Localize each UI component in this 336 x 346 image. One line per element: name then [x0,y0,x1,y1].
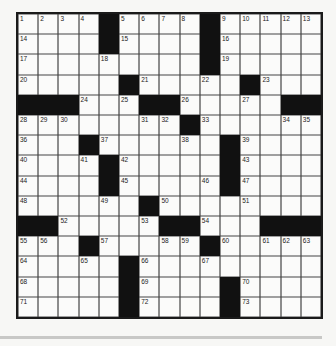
crossword-cell[interactable]: 2 [38,14,58,34]
crossword-cell[interactable] [281,155,301,175]
crossword-cell[interactable] [38,135,58,155]
crossword-cell[interactable] [260,176,280,196]
crossword-cell[interactable] [119,54,139,74]
crossword-cell[interactable] [200,297,220,317]
crossword-cell[interactable] [139,54,159,74]
crossword-cell[interactable] [159,277,179,297]
crossword-cell[interactable] [159,297,179,317]
crossword-cell[interactable] [99,115,119,135]
crossword-cell[interactable] [38,297,58,317]
crossword-cell[interactable]: 44 [18,176,38,196]
crossword-cell[interactable] [180,155,200,175]
crossword-cell[interactable] [260,54,280,74]
crossword-cell[interactable]: 37 [99,135,119,155]
crossword-cell[interactable]: 55 [18,236,38,256]
crossword-cell[interactable] [99,216,119,236]
crossword-cell[interactable] [200,277,220,297]
crossword-cell[interactable]: 72 [139,297,159,317]
crossword-cell[interactable]: 39 [240,135,260,155]
crossword-cell[interactable] [180,75,200,95]
crossword-cell[interactable]: 40 [18,155,38,175]
crossword-cell[interactable]: 13 [301,14,321,34]
crossword-cell[interactable] [260,95,280,115]
crossword-cell[interactable] [119,236,139,256]
crossword-cell[interactable] [301,34,321,54]
crossword-cell[interactable] [58,277,78,297]
crossword-cell[interactable] [281,54,301,74]
crossword-cell[interactable]: 66 [139,256,159,276]
crossword-cell[interactable] [58,54,78,74]
crossword-cell[interactable]: 14 [18,34,38,54]
crossword-cell[interactable]: 15 [119,34,139,54]
crossword-cell[interactable] [220,196,240,216]
crossword-cell[interactable]: 60 [220,236,240,256]
crossword-cell[interactable] [260,256,280,276]
crossword-cell[interactable] [240,236,260,256]
crossword-cell[interactable] [301,277,321,297]
crossword-cell[interactable] [139,34,159,54]
crossword-cell[interactable] [38,176,58,196]
crossword-cell[interactable]: 53 [139,216,159,236]
crossword-cell[interactable] [79,34,99,54]
crossword-cell[interactable] [79,216,99,236]
crossword-cell[interactable] [38,75,58,95]
crossword-cell[interactable]: 3 [58,14,78,34]
crossword-cell[interactable] [281,135,301,155]
crossword-cell[interactable] [159,135,179,155]
crossword-cell[interactable]: 23 [260,75,280,95]
crossword-cell[interactable] [281,256,301,276]
crossword-cell[interactable] [38,54,58,74]
crossword-cell[interactable] [58,75,78,95]
crossword-cell[interactable] [79,75,99,95]
crossword-cell[interactable] [180,196,200,216]
crossword-cell[interactable]: 42 [119,155,139,175]
crossword-cell[interactable] [79,176,99,196]
crossword-cell[interactable] [119,216,139,236]
crossword-cell[interactable] [240,34,260,54]
crossword-cell[interactable]: 1 [18,14,38,34]
crossword-cell[interactable] [200,135,220,155]
crossword-cell[interactable] [200,155,220,175]
crossword-cell[interactable]: 29 [38,115,58,135]
crossword-cell[interactable]: 59 [180,236,200,256]
crossword-cell[interactable] [200,196,220,216]
crossword-cell[interactable] [58,256,78,276]
crossword-cell[interactable] [119,115,139,135]
crossword-cell[interactable]: 71 [18,297,38,317]
crossword-cell[interactable]: 52 [58,216,78,236]
crossword-cell[interactable]: 4 [79,14,99,34]
crossword-cell[interactable]: 63 [301,236,321,256]
crossword-cell[interactable] [139,155,159,175]
crossword-cell[interactable] [99,277,119,297]
crossword-cell[interactable]: 57 [99,236,119,256]
crossword-cell[interactable]: 6 [139,14,159,34]
crossword-cell[interactable] [281,34,301,54]
crossword-cell[interactable] [79,54,99,74]
crossword-cell[interactable]: 21 [139,75,159,95]
crossword-cell[interactable]: 10 [240,14,260,34]
crossword-cell[interactable] [79,277,99,297]
crossword-cell[interactable]: 26 [180,95,200,115]
crossword-cell[interactable] [139,135,159,155]
crossword-cell[interactable]: 43 [240,155,260,175]
crossword-cell[interactable]: 65 [79,256,99,276]
crossword-cell[interactable] [38,256,58,276]
crossword-cell[interactable] [240,216,260,236]
crossword-cell[interactable] [159,75,179,95]
crossword-cell[interactable]: 38 [180,135,200,155]
crossword-cell[interactable]: 7 [159,14,179,34]
crossword-cell[interactable] [281,75,301,95]
crossword-cell[interactable]: 54 [200,216,220,236]
crossword-cell[interactable] [180,297,200,317]
crossword-cell[interactable]: 69 [139,277,159,297]
crossword-cell[interactable] [220,216,240,236]
crossword-cell[interactable]: 11 [260,14,280,34]
crossword-cell[interactable] [58,155,78,175]
crossword-cell[interactable]: 64 [18,256,38,276]
crossword-cell[interactable] [260,196,280,216]
crossword-cell[interactable] [260,115,280,135]
crossword-cell[interactable] [79,196,99,216]
crossword-cell[interactable] [99,95,119,115]
crossword-cell[interactable]: 47 [240,176,260,196]
crossword-cell[interactable]: 8 [180,14,200,34]
